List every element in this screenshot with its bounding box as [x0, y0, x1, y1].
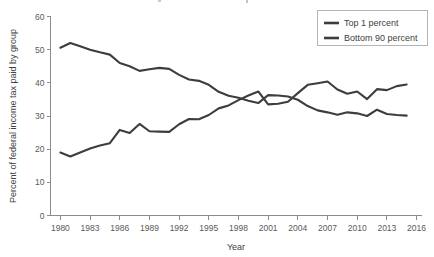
line-chart-canvas: 0102030405060 19801983198619891992199519… — [0, 0, 434, 257]
x-tick-label: 2013 — [377, 223, 396, 233]
y-tick-label: 10 — [35, 177, 45, 187]
x-tick-label: 2001 — [259, 223, 278, 233]
title-fragment-marks — [158, 0, 248, 3]
x-tick-label: 2007 — [318, 223, 337, 233]
series-line-top-1-percent — [60, 82, 406, 157]
data-series-group — [60, 43, 406, 156]
y-tick-marks — [47, 17, 51, 216]
y-tick-label: 30 — [35, 111, 45, 121]
x-tick-label: 2004 — [288, 223, 307, 233]
legend-label-0: Top 1 percent — [344, 18, 399, 28]
y-tick-label: 0 — [40, 211, 45, 221]
x-axis-title: Year — [227, 242, 245, 252]
y-tick-label: 50 — [35, 45, 45, 55]
x-tick-label: 1983 — [81, 223, 100, 233]
x-tick-label: 1980 — [51, 223, 70, 233]
series-line-bottom-90-percent — [60, 43, 406, 116]
y-axis-title: Percent of federal income tax paid by gr… — [8, 29, 18, 203]
x-tick-marks — [60, 216, 416, 220]
y-tick-labels: 0102030405060 — [35, 12, 45, 221]
x-tick-label: 1992 — [170, 223, 189, 233]
y-tick-label: 20 — [35, 144, 45, 154]
x-tick-label: 1995 — [199, 223, 218, 233]
x-tick-label: 1986 — [110, 223, 129, 233]
x-tick-label: 1998 — [229, 223, 248, 233]
x-tick-label: 1989 — [140, 223, 159, 233]
x-tick-labels: 1980198319861989199219951998200120042007… — [51, 223, 426, 233]
chart-figure: 0102030405060 19801983198619891992199519… — [0, 0, 434, 257]
y-tick-label: 40 — [35, 78, 45, 88]
y-tick-label: 60 — [35, 12, 45, 22]
legend-label-1: Bottom 90 percent — [344, 33, 418, 43]
chart-legend: Top 1 percentBottom 90 percent — [318, 11, 428, 46]
x-tick-label: 2010 — [348, 223, 367, 233]
x-tick-label: 2016 — [407, 223, 426, 233]
